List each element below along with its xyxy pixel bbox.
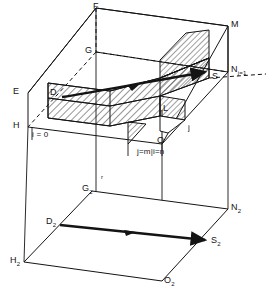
vertex-label-H2-base: H <box>10 255 17 265</box>
vertex-label-O2: O2 <box>164 276 175 287</box>
vertex-label-N-base: N <box>231 64 238 74</box>
vertex-label-j: j <box>188 124 190 132</box>
vertex-label-H2: H2 <box>10 256 20 267</box>
vertex-label-S2: S2 <box>211 236 221 247</box>
vertex-label-D2-base: D <box>46 216 53 226</box>
vertex-label-L: L <box>163 104 168 113</box>
vertex-label-D2: D2 <box>46 217 56 228</box>
vertex-label-E: E <box>13 87 19 96</box>
annotation-i-equals-zero: i = 0 <box>32 131 48 139</box>
vertex-label-H: H <box>13 121 20 130</box>
vertex-label-N-subscript: j=1 <box>238 70 247 76</box>
vertex-label-N: Nj=1 <box>231 65 246 76</box>
annotation-j-equals-m-i-equals-n: j=m|i=n <box>137 148 165 156</box>
vertex-label-S: S <box>212 72 218 81</box>
projection-line-H <box>24 127 28 262</box>
vertex-label-N2: N2 <box>231 203 241 214</box>
figure-root: F M G E H S D L O j Nj=1 i = 0 j=m|i=n G… <box>0 0 273 297</box>
vertex-label-M: M <box>231 20 239 29</box>
vertex-label-G2-subscript: 2 <box>89 189 93 195</box>
vertex-label-S2-subscript: 2 <box>217 241 221 247</box>
vertex-label-G: G <box>85 46 92 55</box>
vertex-label-G2: G2 <box>82 184 93 195</box>
vertex-label-O: O <box>157 136 164 145</box>
vertex-label-O2-subscript: 2 <box>171 281 175 287</box>
vertex-label-D: D <box>50 88 57 97</box>
vertex-label-D2-subscript: 2 <box>53 222 57 228</box>
vertex-label-F: F <box>93 2 99 11</box>
vertex-label-H2-subscript: 2 <box>17 261 21 267</box>
vertex-label-N2-base: N <box>231 202 238 212</box>
vertex-label-N2-subscript: 2 <box>238 208 242 214</box>
annotation-r: r <box>101 174 103 180</box>
